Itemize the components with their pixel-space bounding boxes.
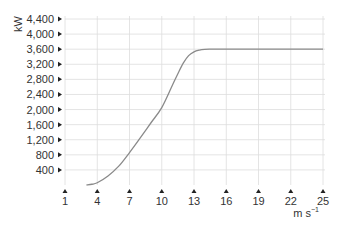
x-tick-label: 19 bbox=[252, 195, 264, 207]
y-tick-label: 3,200 bbox=[26, 58, 54, 70]
x-tick-marker-icon bbox=[224, 189, 229, 193]
x-tick-marker-icon bbox=[127, 189, 132, 193]
x-tick-label: 22 bbox=[285, 195, 297, 207]
y-tick-marker-icon bbox=[58, 77, 62, 82]
y-tick-label: 2,800 bbox=[26, 73, 54, 85]
y-tick-marker-icon bbox=[58, 107, 62, 112]
y-tick-marker-icon bbox=[58, 62, 62, 67]
y-tick-label: 3,600 bbox=[26, 43, 54, 55]
x-axis-unit-exponent: −1 bbox=[311, 206, 319, 213]
y-tick-label: 4,000 bbox=[26, 28, 54, 40]
power-curve-line bbox=[87, 49, 324, 185]
x-tick-marker-icon bbox=[63, 189, 68, 193]
y-axis-ticks: 4008001,2001,6002,0002,4002,8003,2003,60… bbox=[26, 13, 62, 176]
x-tick-label: 13 bbox=[188, 195, 200, 207]
y-tick-label: 1,600 bbox=[26, 119, 54, 131]
x-tick-marker-icon bbox=[288, 189, 293, 193]
x-axis-unit-base: m s bbox=[293, 207, 311, 219]
y-tick-marker-icon bbox=[58, 137, 62, 142]
power-curve-chart: 4008001,2001,6002,0002,4002,8003,2003,60… bbox=[0, 0, 340, 233]
x-tick-label: 1 bbox=[62, 195, 68, 207]
y-tick-marker-icon bbox=[58, 47, 62, 52]
x-tick-marker-icon bbox=[159, 189, 164, 193]
y-tick-label: 1,200 bbox=[26, 134, 54, 146]
y-tick-marker-icon bbox=[58, 92, 62, 97]
y-tick-label: 400 bbox=[36, 164, 54, 176]
y-tick-marker-icon bbox=[58, 152, 62, 157]
x-tick-marker-icon bbox=[256, 189, 261, 193]
y-tick-label: 800 bbox=[36, 149, 54, 161]
x-tick-marker-icon bbox=[321, 189, 326, 193]
y-tick-marker-icon bbox=[58, 122, 62, 127]
x-tick-marker-icon bbox=[192, 189, 197, 193]
x-tick-label: 4 bbox=[94, 195, 100, 207]
y-tick-label: 2,400 bbox=[26, 88, 54, 100]
grid-lines bbox=[65, 16, 325, 185]
x-tick-label: 16 bbox=[220, 195, 232, 207]
y-tick-marker-icon bbox=[58, 17, 62, 22]
y-tick-label: 2,000 bbox=[26, 104, 54, 116]
y-axis-label: kW bbox=[12, 15, 24, 32]
y-tick-label: 4,400 bbox=[26, 13, 54, 25]
y-tick-marker-icon bbox=[58, 32, 62, 37]
x-axis-label: m s−1 bbox=[293, 206, 319, 219]
y-tick-marker-icon bbox=[58, 167, 62, 172]
x-axis-ticks: 147101316192225 bbox=[62, 189, 329, 207]
x-tick-marker-icon bbox=[95, 189, 100, 193]
x-tick-label: 7 bbox=[126, 195, 132, 207]
x-tick-label: 10 bbox=[156, 195, 168, 207]
